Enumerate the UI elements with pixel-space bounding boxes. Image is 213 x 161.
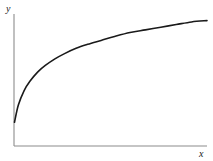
y-axis-label: y xyxy=(6,4,10,14)
plot-area xyxy=(0,0,213,161)
chart-figure: y x xyxy=(0,0,213,161)
x-axis-label: x xyxy=(199,149,203,159)
data-curve xyxy=(15,21,208,123)
